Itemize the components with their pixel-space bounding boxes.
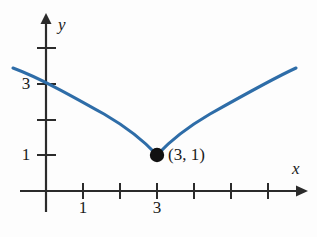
vertex-point-marker bbox=[150, 148, 164, 162]
x-axis-label: x bbox=[292, 160, 300, 177]
y-tick-label-1: 1 bbox=[18, 146, 34, 163]
x-tick-label-3: 3 bbox=[149, 199, 165, 216]
function-curve bbox=[13, 68, 296, 155]
x-tick-label-1: 1 bbox=[75, 199, 91, 216]
graph-figure: y x 3 1 1 3 (3, 1) bbox=[0, 0, 317, 237]
x-axis-arrowhead bbox=[296, 186, 308, 197]
axis-lines bbox=[20, 13, 308, 212]
y-tick-label-3: 3 bbox=[18, 75, 34, 92]
vertex-coordinate-annotation: (3, 1) bbox=[168, 146, 205, 163]
y-axis-label: y bbox=[58, 16, 66, 33]
y-axis-arrowhead bbox=[41, 13, 52, 24]
